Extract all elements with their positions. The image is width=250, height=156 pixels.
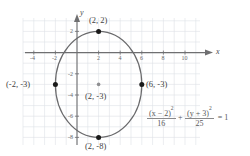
coordinate-plane-svg — [0, 0, 250, 156]
point-left — [53, 82, 58, 87]
fraction-y-term: (y + 3)2 25 — [185, 108, 214, 128]
y-tick-label--6: -6 — [68, 113, 73, 119]
y-axis-label: y — [80, 9, 84, 17]
point-top — [96, 29, 101, 34]
x-tick-label-4: 4 — [119, 55, 122, 61]
point-label-bottom: (2, -8) — [85, 142, 106, 151]
x-axis-label: x — [216, 48, 220, 56]
y-term-base: (y + 3) — [187, 109, 209, 118]
point-bottom — [96, 135, 101, 140]
point-label-top: (2, 2) — [89, 16, 107, 25]
x-term-base: (x − 2) — [149, 109, 171, 118]
point-center — [97, 83, 101, 87]
ellipse-equation: (x − 2)2 16 + (y + 3)2 25 = 1 — [146, 108, 228, 128]
x-tick-label-10: 10 — [182, 55, 188, 61]
point-right — [139, 82, 144, 87]
fraction-y-denominator: 25 — [193, 119, 205, 128]
x-tick-label--2: -2 — [52, 55, 57, 61]
x-tick-label-8: 8 — [162, 55, 165, 61]
x-tick-label--4: -4 — [30, 55, 35, 61]
ellipse-graph-figure: x y -4 -2 2 4 6 8 10 2 -2 -4 -6 -8 (2, 2… — [0, 0, 250, 156]
point-label-left: (-2, -3) — [6, 80, 30, 89]
y-tick-label--4: -4 — [68, 92, 73, 98]
fraction-x-term: (x − 2)2 16 — [147, 108, 176, 128]
y-term-exponent: 2 — [209, 105, 212, 111]
y-axis — [74, 14, 80, 145]
fraction-y-numerator: (y + 3)2 — [185, 108, 214, 118]
y-tick-label-2: 2 — [70, 28, 73, 34]
point-label-right: (6, -3) — [146, 80, 167, 89]
x-term-exponent: 2 — [171, 105, 174, 111]
x-tick-label-6: 6 — [140, 55, 143, 61]
plus-sign: + — [178, 114, 183, 122]
y-tick-label--2: -2 — [68, 71, 73, 77]
y-tick-label--8: -8 — [68, 134, 73, 140]
x-tick-label-2: 2 — [97, 55, 100, 61]
point-label-center: (2, -3) — [85, 92, 106, 101]
fraction-x-denominator: 16 — [155, 119, 167, 128]
fraction-x-numerator: (x − 2)2 — [147, 108, 176, 118]
equation-right-hand-side: = 1 — [218, 114, 229, 122]
